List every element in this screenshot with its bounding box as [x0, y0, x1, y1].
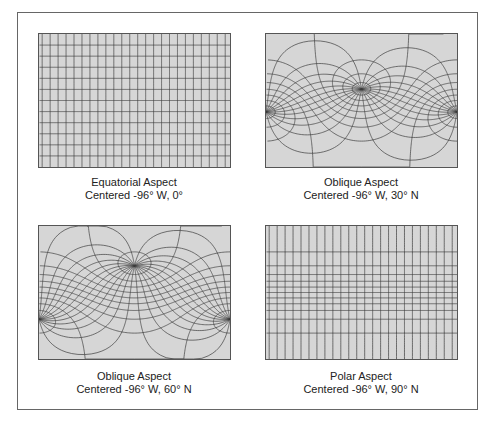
caption-subtitle: Centered -96° W, 30° N	[246, 189, 476, 202]
caption-title: Equatorial Aspect	[19, 176, 249, 189]
caption-title: Oblique Aspect	[19, 370, 249, 383]
caption-oblique-30: Oblique Aspect Centered -96° W, 30° N	[246, 176, 476, 202]
caption-title: Polar Aspect	[246, 370, 476, 383]
caption-polar: Polar Aspect Centered -96° W, 90° N	[246, 370, 476, 396]
caption-oblique-60: Oblique Aspect Centered -96° W, 60° N	[19, 370, 249, 396]
caption-subtitle: Centered -96° W, 90° N	[246, 383, 476, 396]
map-oblique-60-aspect	[38, 225, 231, 360]
caption-equatorial: Equatorial Aspect Centered -96° W, 0°	[19, 176, 249, 202]
graticule-equatorial	[39, 34, 230, 167]
graticule-oblique-30	[266, 34, 457, 167]
caption-subtitle: Centered -96° W, 0°	[19, 189, 249, 202]
map-polar-aspect	[265, 225, 458, 360]
graticule-polar	[266, 226, 457, 359]
caption-subtitle: Centered -96° W, 60° N	[19, 383, 249, 396]
map-equatorial-aspect	[38, 33, 231, 168]
caption-title: Oblique Aspect	[246, 176, 476, 189]
map-oblique-30-aspect	[265, 33, 458, 168]
graticule-oblique-60	[39, 226, 230, 359]
